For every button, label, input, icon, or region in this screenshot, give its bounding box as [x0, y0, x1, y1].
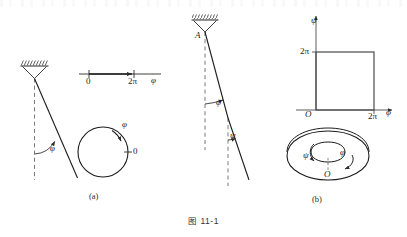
panel-tag-b: (b)	[312, 194, 322, 204]
pivot-label-A: A	[195, 31, 201, 40]
ceiling-hatch	[21, 61, 48, 66]
square-psi-tick-label: 2π	[300, 47, 309, 56]
lower-angle-label: ψ	[230, 131, 236, 140]
square-phi-tick-label: 2π	[368, 112, 377, 121]
lower-rod	[228, 118, 249, 180]
phi-longitude-arrow	[345, 155, 353, 169]
phi-axis-label: φ	[151, 76, 156, 85]
phi-axis-tick-2pi-label: 2π	[128, 77, 137, 86]
torus-origin-label: O	[324, 170, 331, 179]
panel-a-circle	[78, 127, 132, 177]
configuration-circle	[78, 127, 128, 177]
panel-a-phi-axis	[79, 70, 161, 78]
figure-11-1: φ 0 2π φ φ 0 A φ ψ ψ 2π O 2π φ ψ φ O (a)…	[0, 0, 407, 237]
figure-vector-layer	[0, 0, 407, 237]
circle-phi-label: φ	[122, 120, 127, 129]
phi-axis-tick-0-label: 0	[86, 77, 91, 86]
ceiling-hatch-b	[192, 15, 218, 20]
panel-b-square-chart	[296, 16, 392, 114]
circle-direction-arrow	[112, 131, 121, 142]
figure-caption: 图 11-1	[0, 214, 407, 226]
circle-origin-label: 0	[133, 147, 138, 156]
panel-a-pendulum	[21, 61, 78, 181]
support-bracket	[23, 67, 47, 79]
torus-psi-label: ψ	[303, 151, 309, 160]
torus-top-rim	[287, 128, 369, 152]
pendulum-angle-label: φ	[50, 144, 55, 153]
square-origin-label: O	[305, 110, 312, 119]
panel-tag-a: (a)	[89, 191, 98, 201]
square-phi-axis-label: φ	[386, 108, 391, 117]
torus-phi-label: φ	[340, 148, 345, 157]
square-psi-axis-label: ψ	[311, 16, 317, 25]
upper-angle-label: φ	[216, 98, 221, 107]
pendulum-rod	[35, 79, 78, 179]
torus-fundamental-square	[316, 52, 374, 110]
